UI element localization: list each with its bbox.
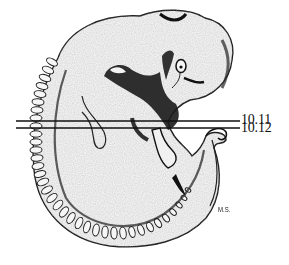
embryo-figure: 10.11 10.12 M.S. [0, 0, 289, 265]
artist-initials: M.S. [218, 205, 230, 214]
section-label-10-12: 10.12 [241, 121, 272, 135]
